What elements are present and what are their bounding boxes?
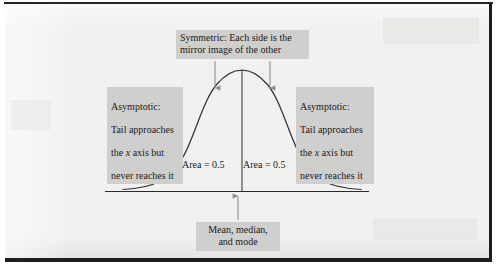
callout-asymptotic-left: Asymptotic: Tail approaches the x axis b…	[107, 87, 183, 184]
area-label-right: Area = 0.5	[243, 159, 286, 170]
asymptotic-right-line2: Tail approaches	[300, 124, 363, 135]
asymptotic-right-line1: Asymptotic:	[300, 101, 349, 112]
area-label-left: Area = 0.5	[182, 159, 225, 170]
callout-mean-median-mode: Mean, median, and mode	[196, 222, 280, 251]
asymptotic-right-line3-pre: the	[300, 147, 315, 158]
asymptotic-left-line4: never reaches it	[111, 170, 174, 181]
asymptotic-right-line3-post: axis but	[319, 147, 353, 158]
callout-asymptotic-right: Asymptotic: Tail approaches the x axis b…	[296, 87, 374, 184]
asymptotic-left-line3-post: axis but	[130, 147, 164, 158]
asymptotic-right-line4: never reaches it	[300, 170, 363, 181]
figure-panel: Symmetric: Each side is the mirror image…	[5, 4, 492, 262]
callout-symmetric: Symmetric: Each side is the mirror image…	[176, 30, 309, 59]
asymptotic-left-line2: Tail approaches	[111, 124, 174, 135]
asymptotic-left-line1: Asymptotic:	[111, 101, 160, 112]
asymptotic-left-line3-pre: the	[111, 147, 126, 158]
scanned-page: Symmetric: Each side is the mirror image…	[0, 0, 502, 280]
